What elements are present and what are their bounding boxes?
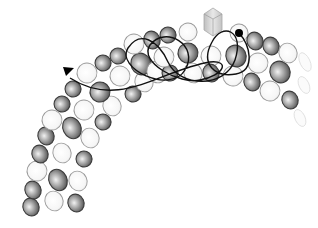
trajectory-start-dot bbox=[235, 29, 243, 37]
subunit-light bbox=[66, 168, 91, 194]
subunit-light bbox=[296, 51, 314, 73]
cargo-icon bbox=[204, 8, 222, 36]
subunit-dark bbox=[20, 195, 42, 218]
subunit-dark bbox=[22, 178, 44, 201]
trajectory-arrowhead-icon bbox=[63, 67, 74, 76]
subunit-light bbox=[50, 140, 75, 166]
subunit-dark bbox=[279, 88, 301, 111]
lattice-diagram bbox=[0, 0, 318, 228]
subunit-dark bbox=[73, 148, 94, 169]
subunit-light bbox=[296, 75, 313, 96]
subunit-light bbox=[42, 188, 67, 214]
subunit-layer bbox=[20, 20, 314, 218]
subunit-dark bbox=[65, 191, 87, 214]
diagram-canvas bbox=[0, 0, 318, 228]
subunit-dark bbox=[45, 166, 71, 194]
subunit-light bbox=[292, 108, 309, 129]
subunit-light bbox=[220, 63, 247, 90]
